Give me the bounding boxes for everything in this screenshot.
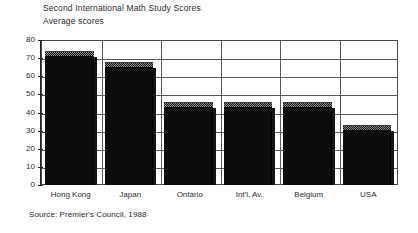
x-axis-label: Hong Kong [41,190,101,199]
y-axis-tick-label: 70 [26,53,35,62]
chart-subtitle: Average scores [43,16,104,26]
bar-slot [339,40,399,185]
y-axis-tick-label: 10 [26,161,35,170]
x-axis-label: Japan [101,190,161,199]
chart-figure: Second International Math Study Scores A… [0,0,418,233]
bar-slot [41,40,101,185]
bar-slot [160,40,220,185]
bar [224,102,273,185]
bar-side-face [94,57,97,185]
bar-front-face [343,129,392,185]
bar-side-face [153,68,156,185]
bar [45,51,94,185]
x-axis-label: Belgium [279,190,339,199]
bar-top-face [343,125,392,130]
y-axis-tick-label: 60 [26,71,35,80]
bar-top-face [105,62,154,67]
bar-side-face [391,131,394,185]
bar-side-face [213,108,216,185]
bar [343,125,392,185]
y-axis-tick-label: 80 [26,35,35,44]
chart-title: Second International Math Study Scores [43,3,201,13]
bar [105,62,154,185]
x-axis-label: Ontario [160,190,220,199]
bar-side-face [332,108,335,185]
x-axis-label: Int'l. Av. [220,190,280,199]
bar [164,102,213,185]
y-axis-tick-label: 30 [26,125,35,134]
y-axis-tick-label: 20 [26,143,35,152]
x-axis-labels: Hong KongJapanOntarioInt'l. Av.BelgiumUS… [41,190,398,204]
bar-top-face [224,102,273,107]
bar-top-face [283,102,332,107]
bar-front-face [283,106,332,185]
bar-front-face [105,66,154,185]
bar-series [41,40,398,185]
bar-side-face [272,108,275,185]
bar-slot [279,40,339,185]
bar-front-face [224,106,273,185]
bar-front-face [45,55,94,185]
source-note: Source: Premier's Council, 1988 [29,210,147,219]
x-axis-label: USA [339,190,399,199]
y-axis-tick-label: 40 [26,107,35,116]
bar-top-face [164,102,213,107]
bar-slot [220,40,280,185]
bar [283,102,332,185]
y-axis-tick: 0 [38,185,43,186]
bar-top-face [45,51,94,56]
y-axis-tick-label: 0 [31,180,35,189]
bar-front-face [164,106,213,185]
y-axis-tick-label: 50 [26,89,35,98]
bar-slot [101,40,161,185]
